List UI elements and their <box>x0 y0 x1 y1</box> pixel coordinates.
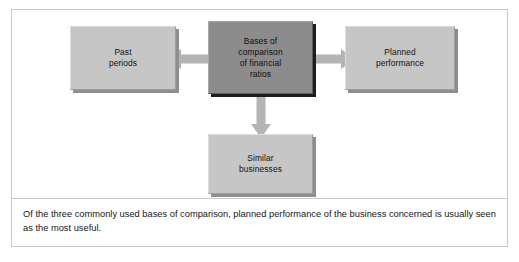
figure-panel: Past periods Bases of comparison of fina… <box>11 9 508 247</box>
diagram-canvas: Past periods Bases of comparison of fina… <box>12 10 507 198</box>
node-bases-of-comparison-label: Bases of comparison of financial ratios <box>234 36 286 80</box>
arrow-down-icon <box>250 90 272 138</box>
node-similar-businesses-label: Similar businesses <box>235 153 286 175</box>
figure-caption: Of the three commonly used bases of comp… <box>12 199 507 246</box>
node-past-periods: Past periods <box>70 26 176 90</box>
node-planned-performance-label: Planned performance <box>372 47 428 69</box>
node-bases-of-comparison: Bases of comparison of financial ratios <box>208 21 313 94</box>
node-planned-performance: Planned performance <box>345 26 455 90</box>
node-past-periods-label: Past periods <box>105 47 141 69</box>
node-similar-businesses: Similar businesses <box>208 134 313 194</box>
